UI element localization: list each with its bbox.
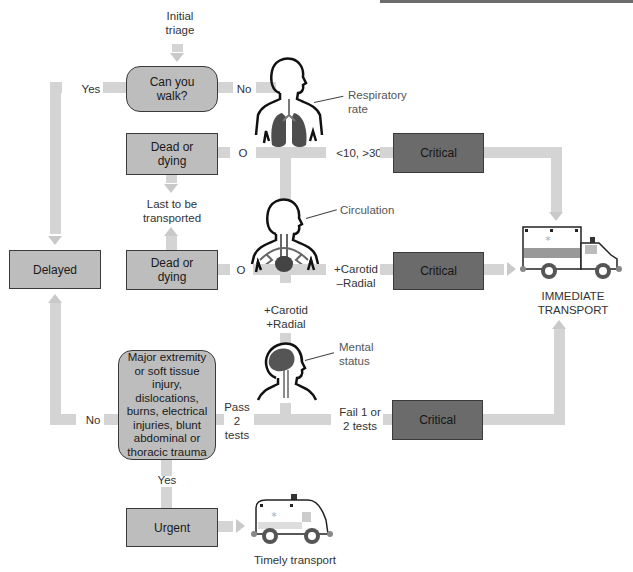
node-line: injuries, blunt: [133, 419, 201, 431]
initial-triage-label: Initial triage: [150, 9, 210, 37]
node-line: Major extremity: [128, 351, 207, 363]
arrow-down-icon: [48, 236, 62, 245]
arrow-down-icon: [170, 53, 184, 62]
label-line: status: [339, 355, 370, 367]
label-line: 2: [234, 415, 240, 427]
node-text: Critical: [420, 146, 457, 160]
label-line: rate: [348, 103, 368, 115]
node-text: Dead ordying: [151, 256, 194, 284]
connector: [256, 147, 326, 158]
node-line: or soft tissue: [134, 365, 199, 377]
label-line: +Radial: [266, 318, 305, 330]
ambulance-icon: *: [250, 492, 334, 550]
connector: [218, 147, 230, 158]
critical-node: Critical: [392, 400, 483, 440]
node-line: injury, dislocations,: [135, 378, 198, 404]
last-to-be-transported-label: Last to betransported: [128, 197, 216, 225]
node-text: Delayed: [33, 263, 77, 277]
label-line: Respiratory: [348, 89, 407, 101]
connector: [218, 82, 233, 93]
o-label: O: [236, 146, 250, 160]
node-line: dying: [158, 270, 187, 284]
arrow-up-icon: [48, 294, 62, 303]
delayed-node: Delayed: [9, 250, 101, 289]
fail-tests-label: Fail 1 or2 tests: [334, 405, 386, 433]
label-line: transported: [143, 212, 201, 224]
node-text: Critical: [420, 264, 457, 278]
label-line: –Radial: [337, 277, 376, 289]
label-line: Last to be: [147, 198, 198, 210]
node-text: Urgent: [154, 521, 190, 535]
connector: [280, 147, 291, 199]
connector: [551, 147, 562, 213]
node-line: burns, electrical: [127, 405, 208, 417]
connector: [166, 175, 177, 183]
node-line: walk?: [157, 89, 188, 103]
ambulance-icon: *: [519, 225, 623, 285]
label-line: +Carotid: [264, 304, 308, 316]
carotid-plus-radial-label: +Carotid+Radial: [258, 303, 314, 331]
immediate-transport-label: IMMEDIATETRANSPORT: [530, 289, 616, 317]
node-line: Dead or: [151, 140, 194, 154]
urgent-node: Urgent: [126, 508, 218, 547]
dead-or-dying-node: Dead ordying: [126, 250, 218, 290]
connector: [380, 147, 394, 158]
mental-status-label: Mentalstatus: [339, 340, 374, 368]
label-line: IMMEDIATE: [541, 290, 604, 302]
label-line: Mental: [339, 341, 374, 353]
critical-node: Critical: [393, 252, 484, 290]
node-line: dying: [158, 154, 187, 168]
node-line: abdominal or: [134, 432, 200, 444]
connector: [50, 303, 61, 425]
label-line: Fail 1 or: [339, 406, 381, 418]
connector: [280, 403, 291, 415]
connector: [50, 82, 61, 234]
yes-label: Yes: [80, 82, 102, 96]
connector: [484, 264, 504, 275]
label-line: 2 tests: [343, 420, 377, 432]
no-label: No: [84, 413, 102, 427]
arrow-right-icon: [507, 262, 516, 276]
node-text: Can youwalk?: [150, 75, 195, 103]
node-text: Dead ordying: [151, 140, 194, 168]
node-line: Dead or: [151, 256, 194, 270]
connector: [218, 521, 233, 532]
arrow-up-icon: [552, 320, 566, 329]
heart-figure-overlay: [244, 198, 324, 278]
node-text: Critical: [419, 413, 456, 427]
connector: [166, 236, 177, 251]
arrow-down-icon: [164, 184, 178, 193]
connector: [254, 414, 331, 425]
label-line: TRANSPORT: [538, 304, 609, 316]
circulation-label: Circulation: [340, 203, 394, 217]
svg-text:*: *: [271, 510, 277, 523]
initial-triage-text: Initial triage: [150, 9, 210, 37]
label-line: Pass: [224, 401, 250, 413]
pass-2-tests-label: Pass2tests: [222, 400, 252, 442]
respiratory-rate-label: Respiratoryrate: [348, 88, 407, 116]
connector: [103, 82, 127, 93]
carotid-minus-radial-label: +Carotid–Radial: [328, 262, 384, 290]
major-injury-node: Major extremity or soft tissue injury, d…: [118, 350, 216, 460]
lungs-figure-icon: [250, 55, 330, 150]
brain-figure-icon: [252, 342, 324, 404]
yes-label: Yes: [154, 473, 180, 487]
svg-text:*: *: [545, 234, 551, 247]
can-you-walk-node: Can youwalk?: [126, 66, 218, 112]
connector: [554, 329, 565, 425]
connector: [50, 414, 76, 425]
arrow-down-icon: [549, 212, 563, 221]
connector: [161, 487, 172, 509]
node-text: Major extremity or soft tissue injury, d…: [119, 351, 215, 459]
dead-or-dying-node: Dead ordying: [126, 133, 218, 175]
connector: [380, 264, 394, 275]
timely-transport-label: Timely transport: [252, 553, 338, 567]
node-line: Can you: [150, 75, 195, 89]
label-line: +Carotid: [334, 263, 378, 275]
connector: [218, 264, 230, 275]
connector: [172, 44, 183, 52]
page-edge-strip: [380, 0, 633, 3]
label-line: tests: [225, 429, 249, 441]
arrow-up-icon: [164, 227, 178, 236]
critical-node: Critical: [393, 133, 484, 173]
